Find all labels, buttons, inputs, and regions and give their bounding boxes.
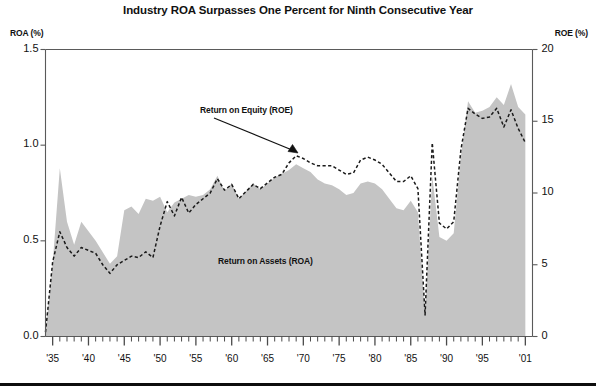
x-axis-tick-label: '65 (248, 353, 288, 364)
right-axis-tick-label: 10 (542, 185, 554, 197)
x-axis-tick-label: '45 (104, 353, 144, 364)
x-axis-tick-label: '60 (212, 353, 252, 364)
roa-area-series (46, 84, 526, 337)
chart-title: Industry ROA Surpasses One Percent for N… (0, 4, 596, 16)
right-axis-tick-label: 0 (542, 329, 548, 341)
x-axis-tick-label: '95 (462, 353, 502, 364)
roe-annotation-arrow (214, 118, 297, 152)
x-axis-tick-label: '70 (283, 353, 323, 364)
x-axis-tick-label: '50 (140, 353, 180, 364)
left-axis-tick-label: 0.0 (2, 329, 39, 341)
bottom-rule (0, 383, 596, 386)
right-axis-tick-label: 15 (542, 113, 554, 125)
x-axis-tick-label: '75 (319, 353, 359, 364)
x-axis-tick-label: '01 (505, 353, 545, 364)
roe-series-annotation: Return on Equity (ROE) (200, 105, 293, 115)
left-axis-title: ROA (%) (10, 28, 43, 38)
roa-series-annotation: Return on Assets (ROA) (218, 256, 313, 266)
x-axis-tick-label: '85 (391, 353, 431, 364)
chart-figure: Industry ROA Surpasses One Percent for N… (0, 0, 596, 389)
left-axis-tick-label: 0.5 (2, 233, 39, 245)
right-axis-title: ROE (%) (555, 28, 588, 38)
left-axis-tick-label: 1.0 (2, 137, 39, 149)
left-axis-tick-label: 1.5 (2, 42, 39, 54)
roe-annotation-arrowhead (288, 145, 298, 154)
x-axis-tick-label: '90 (427, 353, 467, 364)
right-axis-tick-label: 5 (542, 257, 548, 269)
x-axis-tick-label: '40 (68, 353, 108, 364)
x-axis-tick-label: '80 (355, 353, 395, 364)
right-axis-tick-label: 20 (542, 42, 554, 54)
plot-area (0, 0, 596, 389)
x-axis-tick-label: '55 (176, 353, 216, 364)
x-axis-tick-label: '35 (33, 353, 73, 364)
